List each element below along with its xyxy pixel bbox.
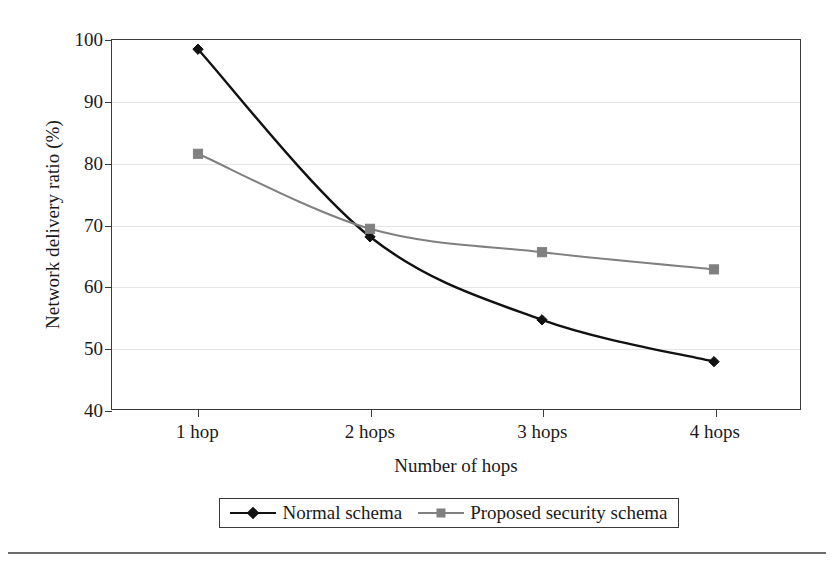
y-tick-label: 100: [59, 30, 103, 49]
legend-marker: [247, 507, 260, 520]
data-point-square: [537, 248, 546, 257]
y-tick-label: 50: [59, 339, 103, 358]
legend-marker: [437, 509, 446, 518]
plot-area: [111, 39, 801, 410]
legend-label: Proposed security schema: [470, 502, 667, 524]
legend-entry-1: Normal schema: [230, 502, 402, 524]
series-2: [193, 149, 718, 274]
legend-key-square-icon: [418, 506, 464, 520]
data-point-square: [365, 224, 374, 233]
y-tick-label: 90: [59, 91, 103, 110]
series-1: [193, 44, 719, 367]
caption-divider: [8, 552, 826, 554]
y-tick-mark: [105, 40, 112, 41]
series-line: [198, 49, 714, 361]
x-tick-mark: [198, 409, 199, 417]
series-layer: [112, 40, 800, 409]
x-axis-title: Number of hops: [111, 455, 801, 477]
x-tick-mark: [371, 409, 372, 417]
series-line: [198, 154, 714, 270]
x-tick-mark: [716, 409, 717, 417]
y-tick-mark: [105, 349, 112, 350]
x-tick-label: 4 hops: [645, 421, 785, 444]
data-point-diamond: [537, 315, 547, 325]
y-tick-label: 60: [59, 277, 103, 296]
y-tick-label: 80: [59, 153, 103, 172]
data-point-square: [193, 149, 202, 158]
y-tick-label: 40: [59, 401, 103, 420]
y-tick-mark: [105, 164, 112, 165]
legend-entry-2: Proposed security schema: [418, 502, 667, 524]
legend-key-diamond-icon: [230, 506, 276, 520]
legend-label: Normal schema: [282, 502, 402, 524]
x-tick-label: 1 hop: [127, 421, 267, 444]
chart-legend: Normal schemaProposed security schema: [219, 498, 679, 528]
data-point-diamond: [709, 356, 719, 366]
y-tick-mark: [105, 287, 112, 288]
y-tick-label: 70: [59, 215, 103, 234]
x-tick-label: 2 hops: [300, 421, 440, 444]
y-tick-mark: [105, 226, 112, 227]
y-axis-tick-labels: 405060708090100: [55, 0, 103, 572]
figure-container: Network delivery ratio (%) 4050607080901…: [0, 0, 833, 572]
y-tick-mark: [105, 102, 112, 103]
x-tick-label: 3 hops: [472, 421, 612, 444]
x-tick-mark: [543, 409, 544, 417]
x-axis-tick-labels: 1 hop2 hops3 hops4 hops: [111, 421, 801, 451]
data-point-square: [709, 265, 718, 274]
figure-caption: [12, 560, 712, 572]
y-tick-mark: [105, 411, 112, 412]
